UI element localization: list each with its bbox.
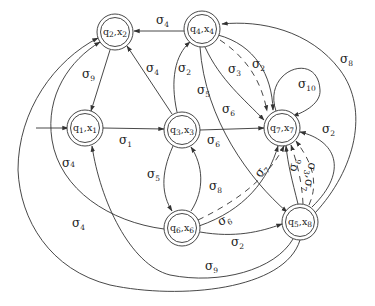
state-q2-x2: q2,x2 xyxy=(97,14,133,50)
state-q3-x3: q3,x3 xyxy=(164,112,200,148)
label-q5-q1: σ9 xyxy=(205,259,218,275)
label-q3-q4: σ2 xyxy=(178,61,191,77)
edge-q6-q3 xyxy=(191,147,201,211)
state-diagram: σ4 σ9 σ4 σ1 σ2 σ3 σ2 σ6 σ5 σ10 σ8 σ6 σ2 … xyxy=(0,0,375,306)
edge-q5-q7-s6 xyxy=(291,145,303,204)
nodes: q2,x2 q4,x4 q1,x1 q3,x3 q7,x7 q6,x6 q5,x… xyxy=(67,11,318,246)
label-q4-q5: σ5 xyxy=(197,83,210,99)
state-q7-x7: q7,x7 xyxy=(264,110,300,146)
label-q4-q2: σ4 xyxy=(156,13,169,29)
edge-q3-q2 xyxy=(127,46,172,114)
label-q3-q2: σ4 xyxy=(146,61,159,77)
label-q6-q2: σ4 xyxy=(62,156,75,170)
label-q7-loop: σ10 xyxy=(298,77,316,93)
label-q4-q7-s3: σ3 xyxy=(228,62,241,78)
edge-q5-q1 xyxy=(92,146,293,278)
label-q3-q6: σ5 xyxy=(147,167,160,183)
state-q5-x8: q5,x8 xyxy=(282,204,318,240)
state-q4-x4: q4,x4 xyxy=(184,11,220,47)
edge-q3-q7 xyxy=(200,128,264,130)
edge-q3-q6 xyxy=(164,146,173,211)
label-q2-q1: σ9 xyxy=(82,67,95,83)
label-q6-q3: σ8 xyxy=(209,179,222,195)
edge-q3-q4 xyxy=(174,42,190,112)
label-q4-q7-s2: σ2 xyxy=(252,57,265,73)
state-q6-x6: q6,x6 xyxy=(164,210,200,246)
state-q1-x1: q1,x1 xyxy=(67,110,103,146)
edge-q1-q3 xyxy=(103,128,164,129)
label-q3-q7: σ6 xyxy=(207,133,220,149)
label-q5-q2: σ4 xyxy=(72,216,85,232)
edge-q6-q5 xyxy=(200,224,282,234)
label-q5-q7-s3s7: σ3,σ7 xyxy=(299,161,320,193)
label-q4-q7-s6: σ6 xyxy=(222,102,235,118)
label-q5-q7-s2: σ2 xyxy=(322,122,335,138)
edge-q5-q7-solid xyxy=(286,146,298,204)
label-q6-q7-s6: σ6 xyxy=(215,210,234,230)
label-q6-q5: σ2 xyxy=(231,235,244,251)
label-q5-q4: σ8 xyxy=(340,52,353,68)
label-q1-q3: σ1 xyxy=(119,133,132,149)
